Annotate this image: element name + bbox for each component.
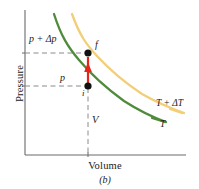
- marker-point-i: [84, 82, 91, 89]
- label-pressure-high: p + Δp: [29, 34, 57, 44]
- figure-container: p + Δp p f i V T + ΔT T Pressure Volume …: [0, 0, 199, 189]
- y-axis-title: Pressure: [14, 48, 25, 120]
- label-pressure-low: p: [60, 73, 65, 83]
- figure-caption: (b): [25, 174, 185, 185]
- x-axis-title: Volume: [25, 160, 185, 171]
- label-isotherm-hot: T + ΔT: [156, 99, 183, 109]
- label-point-initial: i: [82, 89, 85, 98]
- label-volume-marker: V: [92, 115, 98, 126]
- marker-point-f: [84, 49, 91, 56]
- label-isotherm-cold: T: [160, 120, 165, 130]
- label-point-final: f: [95, 40, 98, 50]
